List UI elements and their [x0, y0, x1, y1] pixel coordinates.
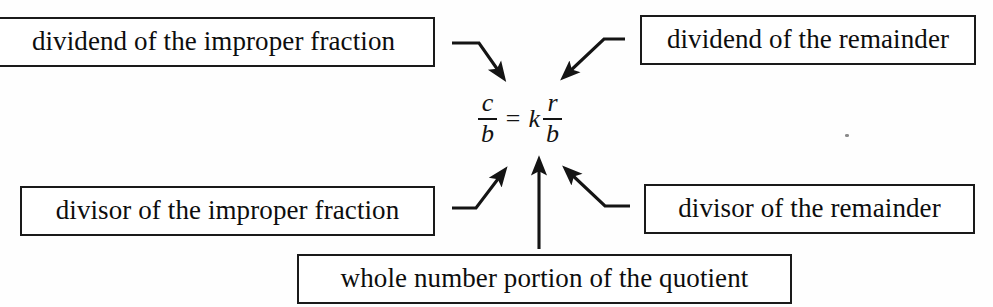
arrow-to-b-right [570, 173, 630, 206]
central-formula: c b = k r b [465, 83, 575, 155]
whole-number-variable: k [529, 104, 544, 134]
arrow-to-r [568, 39, 625, 73]
right-fraction: r b [543, 90, 562, 147]
left-fraction: c b [478, 90, 497, 147]
label-box-divisor-improper-fraction: divisor of the improper fraction [20, 186, 435, 236]
equals-sign: = [497, 104, 529, 134]
scan-speck [845, 134, 849, 137]
left-fraction-numerator: c [479, 90, 497, 118]
right-fraction-numerator: r [544, 90, 560, 118]
label-box-dividend-remainder: dividend of the remainder [640, 15, 976, 65]
label-text-dividend-improper-fraction: dividend of the improper fraction [25, 28, 402, 55]
label-text-whole-number-portion: whole number portion of the quotient [334, 265, 756, 292]
label-text-dividend-remainder: dividend of the remainder [660, 26, 956, 53]
label-box-dividend-improper-fraction: dividend of the improper fraction [0, 17, 435, 67]
label-box-divisor-remainder: divisor of the remainder [644, 184, 975, 234]
label-text-divisor-remainder: divisor of the remainder [671, 195, 948, 222]
arrow-to-b-left [452, 175, 501, 208]
label-text-divisor-improper-fraction: divisor of the improper fraction [49, 197, 407, 224]
label-box-whole-number-portion: whole number portion of the quotient [297, 254, 792, 304]
diagram-canvas: c b = k r b dividend of the improper fra… [0, 0, 993, 307]
left-fraction-denominator: b [478, 120, 497, 148]
right-fraction-denominator: b [543, 120, 562, 148]
arrow-to-c [452, 43, 500, 73]
